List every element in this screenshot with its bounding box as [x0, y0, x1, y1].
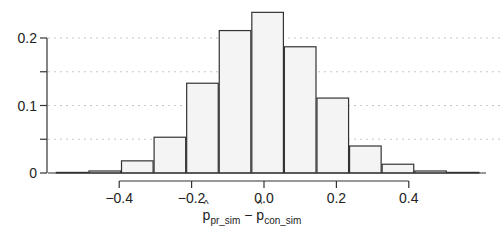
histogram-bar — [284, 47, 316, 173]
y-axis: 00.10.2 — [18, 30, 47, 181]
histogram-bar — [122, 161, 154, 173]
x-tick-label: 0.4 — [399, 190, 419, 205]
p-hat-symbol: p — [203, 207, 211, 223]
x-tick-label: −0.2 — [178, 190, 206, 205]
histogram-bar — [382, 164, 414, 173]
subscript-pr-sim: pr_sim — [210, 215, 240, 226]
histogram-bars — [48, 12, 486, 173]
y-tick-label: 0.2 — [18, 30, 38, 46]
x-axis-label: ppr_sim − pcon_sim — [0, 207, 504, 226]
y-tick-label: 0 — [29, 165, 37, 181]
p-hat-symbol: p — [256, 207, 264, 223]
histogram-chart: 00.10.2 −0.4−0.20.00.20.4 — [0, 0, 504, 205]
histogram-bar — [154, 137, 186, 173]
histogram-bar — [219, 31, 251, 173]
x-tick-label: 0.2 — [327, 190, 347, 205]
y-tick-label: 0.1 — [18, 98, 38, 114]
histogram-bar — [317, 98, 349, 173]
histogram-bar — [350, 146, 382, 173]
histogram-bar — [187, 83, 219, 173]
histogram-bar — [252, 12, 284, 173]
minus-sign: − — [240, 207, 256, 223]
subscript-con-sim: con_sim — [264, 215, 301, 226]
x-tick-label: −0.4 — [105, 190, 133, 205]
